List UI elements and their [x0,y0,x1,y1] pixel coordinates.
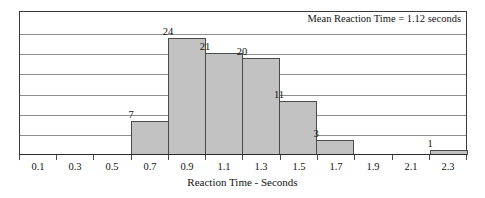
x-axis-tick-label: 0.5 [92,161,132,173]
bar-value-label: 7 [111,109,151,120]
histogram-bar [131,121,169,155]
bar-value-label: 20 [222,46,262,57]
bar-value-label: 24 [148,26,188,37]
x-axis-tick-label: 0.9 [167,161,207,173]
x-axis-tick-label: 0.3 [55,161,95,173]
x-axis-tick [466,155,467,160]
x-axis-tick [280,155,281,160]
histogram-bar [168,38,206,155]
x-axis-tick-label: 1.1 [204,161,244,173]
x-axis-tick [205,155,206,160]
x-axis-tick-label: 2.1 [391,161,431,173]
x-axis-tick [19,155,20,160]
x-axis-tick [168,155,169,160]
bar-value-label: 11 [259,89,299,100]
x-axis-tick [354,155,355,160]
x-axis-tick-label: 1.9 [353,161,393,173]
x-axis-tick [317,155,318,160]
x-axis-tick-label: 1.5 [279,161,319,173]
x-axis-tick [392,155,393,160]
histogram-bar [316,140,354,155]
x-axis-tick-label: 0.7 [130,161,170,173]
histogram-bar [242,58,280,155]
bars-layer [19,11,467,155]
bar-value-label: 1 [410,138,450,149]
x-axis-line [19,154,467,155]
histogram-figure: 7 24 21 20 11 3 1 Mean Reaction Time = 1… [0,0,485,198]
x-axis-tick [93,155,94,160]
x-axis-tick-label: 1.7 [316,161,356,173]
x-axis-tick [242,155,243,160]
bar-value-label: 21 [185,41,225,52]
x-axis-tick-label: 1.3 [241,161,281,173]
x-axis-tick [429,155,430,160]
histogram-bar [205,53,243,155]
x-axis-tick-label: 2.3 [428,161,468,173]
bar-value-label: 3 [296,128,336,139]
x-axis-tick-label: 0.1 [18,161,58,173]
x-axis-tick [131,155,132,160]
x-axis-title: Reaction Time - Seconds [0,176,485,188]
x-axis-tick [56,155,57,160]
mean-annotation: Mean Reaction Time = 1.12 seconds [308,13,462,24]
